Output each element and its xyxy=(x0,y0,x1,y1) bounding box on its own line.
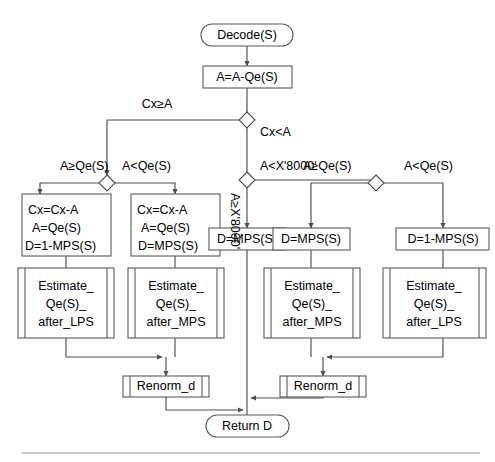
edge-left-decision-to-lps xyxy=(40,183,99,194)
node-a-minus-qe: A=A-Qe(S) xyxy=(203,66,292,88)
est-lps-left-line3: after_LPS xyxy=(38,315,94,329)
est-mps-right-line3: after_MPS xyxy=(282,315,341,329)
decision-cx-vs-a-shape xyxy=(239,112,255,128)
decision-left-a-vs-qe-shape xyxy=(99,175,115,191)
node-end: Return D xyxy=(206,415,289,437)
left-lps-line3: D=1-MPS(S) xyxy=(25,239,96,253)
edge-renorm-left-to-return xyxy=(166,396,243,410)
est-lps-right-line3: after_LPS xyxy=(406,315,462,329)
node-est-after-lps-left: Estimate_ Qe(S)_ after_LPS xyxy=(18,268,114,338)
est-mps-left-line1: Estimate_ xyxy=(148,279,205,293)
right-mps-label: D=MPS(S) xyxy=(281,232,341,246)
est-mps-right-line1: Estimate_ xyxy=(284,279,341,293)
label-right-a-ge-qe: A≥Qe(S) xyxy=(303,159,352,173)
est-mps-left-line2: Qe(S)_ xyxy=(156,297,197,311)
node-renorm-left: Renorm_d xyxy=(123,376,209,397)
decision-right-a-vs-qe xyxy=(368,175,384,191)
node-right-mps-box: D=MPS(S) xyxy=(273,228,350,250)
renorm-right-label: Renorm_d xyxy=(294,379,352,393)
label-right-a-lt-qe: A<Qe(S) xyxy=(404,159,453,173)
flowchart-diagram: Decode(S) Return D A=A-Qe(S) Cx=Cx-A A=Q… xyxy=(0,0,495,462)
left-mps-line3: D=MPS(S) xyxy=(138,239,198,253)
left-lps-line1: Cx=Cx-A xyxy=(28,203,79,217)
edge-right-decision-to-mps xyxy=(311,183,368,228)
left-mps-line1: Cx=Cx-A xyxy=(137,203,188,217)
node-est-after-mps-right: Estimate_ Qe(S)_ after_MPS xyxy=(264,268,360,338)
label-a-ge-x8000: A≥X'8000' xyxy=(228,193,242,249)
label-cx-lt-a: Cx<A xyxy=(260,125,292,139)
edge-right-decision-to-lps xyxy=(384,183,443,228)
start-label: Decode(S) xyxy=(217,28,277,42)
left-lps-line2: A=Qe(S) xyxy=(32,221,81,235)
est-lps-right-line2: Qe(S)_ xyxy=(414,297,455,311)
label-left-a-ge-qe: A≥Qe(S) xyxy=(60,159,109,173)
decision-left-a-vs-qe xyxy=(99,175,115,191)
label-cx-ge-a: Cx≥A xyxy=(142,97,173,111)
node-est-after-lps-right: Estimate_ Qe(S)_ after_LPS xyxy=(383,268,486,338)
node-est-after-mps-left: Estimate_ Qe(S)_ after_MPS xyxy=(128,268,224,338)
decision-a-vs-x8000 xyxy=(239,172,255,188)
edge-left-decision-to-mps xyxy=(115,183,175,194)
renorm-left-label: Renorm_d xyxy=(137,379,195,393)
edge-est-lps-left-to-renorm xyxy=(66,338,162,357)
center-mps-label: D=MPS(S) xyxy=(217,232,277,246)
left-mps-line2: A=Qe(S) xyxy=(141,221,190,235)
node-left-mps-box: Cx=Cx-A A=Qe(S) D=MPS(S) xyxy=(131,194,220,256)
label-left-a-lt-qe: A<Qe(S) xyxy=(122,159,171,173)
right-lps-label: D=1-MPS(S) xyxy=(407,232,478,246)
edge-decision2-right xyxy=(255,175,376,180)
est-mps-left-line3: after_MPS xyxy=(146,315,205,329)
a-minus-qe-label: A=A-Qe(S) xyxy=(216,70,277,84)
est-lps-left-line1: Estimate_ xyxy=(38,279,95,293)
diagram-canvas: Decode(S) Return D A=A-Qe(S) Cx=Cx-A A=Q… xyxy=(0,0,495,462)
end-label: Return D xyxy=(222,419,272,433)
est-lps-right-line1: Estimate_ xyxy=(406,279,463,293)
decision-cx-vs-a xyxy=(239,112,255,128)
node-left-lps-box: Cx=Cx-A A=Qe(S) D=1-MPS(S) xyxy=(22,194,111,256)
decision-right-a-vs-qe-shape xyxy=(368,175,384,191)
decision-a-vs-x8000-shape xyxy=(239,172,255,188)
node-renorm-right: Renorm_d xyxy=(280,376,366,397)
est-mps-right-line2: Qe(S)_ xyxy=(292,297,333,311)
edge-est-lps-right-to-renorm xyxy=(327,338,443,357)
est-lps-left-line2: Qe(S)_ xyxy=(46,297,87,311)
node-right-lps-box: D=1-MPS(S) xyxy=(396,228,489,250)
node-start: Decode(S) xyxy=(201,24,293,46)
